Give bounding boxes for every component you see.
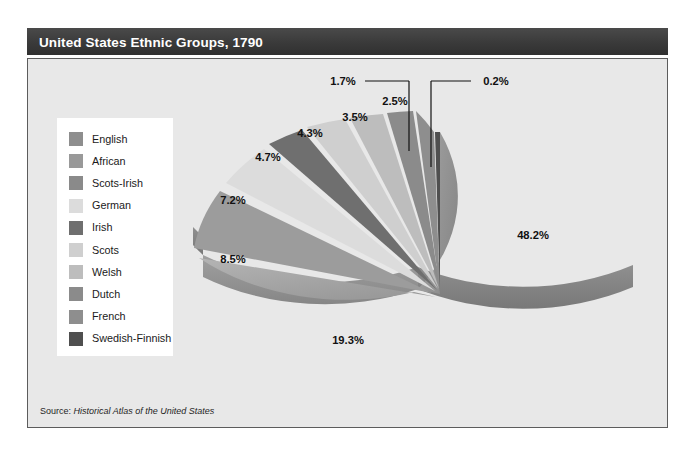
legend-swatch-welsh: [69, 265, 83, 279]
legend-label-german: German: [92, 200, 131, 211]
legend-swatch-irish: [69, 221, 83, 235]
pct-label-english: 48.2%: [517, 229, 549, 241]
slice-side-english: [413, 265, 633, 309]
legend-swatch-english: [69, 132, 83, 146]
legend-item-welsh[interactable]: Welsh: [57, 261, 173, 283]
pct-label-african: 19.3%: [332, 334, 364, 346]
legend-item-swedish-finnish[interactable]: Swedish-Finnish: [57, 328, 173, 350]
legend-label-irish: Irish: [92, 222, 112, 233]
legend-label-scots-irish: Scots-Irish: [92, 178, 143, 189]
legend-swatch-scots: [69, 243, 83, 257]
legend-label-scots: Scots: [92, 245, 119, 256]
pct-label-swedish-finnish: 0.2%: [483, 75, 509, 87]
legend-swatch-african: [69, 154, 83, 168]
page-title: United States Ethnic Groups, 1790: [39, 34, 263, 49]
legend-label-african: African: [92, 156, 126, 167]
legend-swatch-german: [69, 199, 83, 213]
pct-label-french: 1.7%: [330, 75, 356, 87]
legend-item-irish[interactable]: Irish: [57, 217, 173, 239]
pct-label-scots-irish: 8.5%: [220, 253, 246, 265]
source-title: Historical Atlas of the United States: [74, 406, 215, 416]
pct-label-dutch: 2.5%: [382, 95, 408, 107]
legend-swatch-french: [69, 310, 83, 324]
legend-label-french: French: [92, 311, 126, 322]
source-label: Source:: [40, 406, 74, 416]
legend-item-english[interactable]: English: [57, 128, 173, 150]
legend-item-african[interactable]: African: [57, 150, 173, 172]
legend-swatch-dutch: [69, 287, 83, 301]
legend-item-dutch[interactable]: Dutch: [57, 283, 173, 305]
legend-item-scots[interactable]: Scots: [57, 239, 173, 261]
pct-label-irish: 4.7%: [255, 151, 281, 163]
legend-label-swedish-finnish: Swedish-Finnish: [92, 333, 171, 344]
legend-item-german[interactable]: German: [57, 195, 173, 217]
pct-label-german: 7.2%: [220, 194, 246, 206]
chart-figure: United States Ethnic Groups, 1790: [0, 0, 693, 460]
legend-swatch-scots-irish: [69, 176, 83, 190]
pct-label-scots: 4.3%: [297, 127, 323, 139]
legend-label-welsh: Welsh: [92, 267, 122, 278]
chart-legend: English African Scots-Irish German Irish…: [57, 118, 173, 356]
legend-label-english: English: [92, 134, 127, 145]
chart-panel: 48.2% 19.3% 8.5% 7.2% 4.7% 4.3% 3.5% 2.5…: [27, 58, 668, 428]
chart-title-bar: United States Ethnic Groups, 1790: [27, 28, 668, 55]
legend-item-scots-irish[interactable]: Scots-Irish: [57, 172, 173, 194]
legend-label-dutch: Dutch: [92, 289, 120, 300]
source-note: Source: Historical Atlas of the United S…: [40, 406, 214, 416]
legend-swatch-swedish-finnish: [69, 332, 83, 346]
pct-label-welsh: 3.5%: [342, 111, 368, 123]
legend-item-french[interactable]: French: [57, 306, 173, 328]
